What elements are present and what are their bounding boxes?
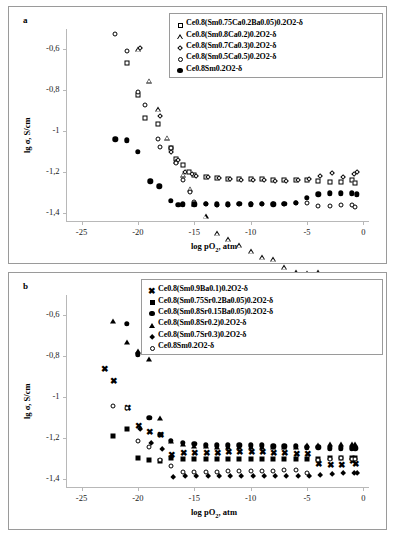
x-tick-label: -15	[178, 493, 210, 503]
data-point	[157, 184, 162, 189]
x-tick-label: -5	[291, 227, 323, 237]
x-axis-line	[66, 487, 369, 488]
x-tick	[194, 487, 195, 491]
data-point	[158, 458, 163, 463]
y-tick-label: -1,4	[26, 473, 60, 483]
y-tick-label: -0,6	[26, 43, 60, 53]
x-axis-title: log pO2, atm	[59, 241, 369, 253]
data-point	[237, 201, 242, 206]
data-point	[168, 198, 173, 203]
panel-a-legend: Ce0.8(Sm0.75Ca0.2Ba0.05)0.2O2-δCe0.8(Sm0…	[169, 13, 383, 78]
legend-label: Ce0.8(Sm0.8Sr0.15Ba0.05)0.2O2-δ	[158, 307, 273, 316]
data-point	[270, 202, 275, 207]
legend-item[interactable]: Ce0.8Sm0.2O2-δ	[174, 63, 377, 74]
legend-item[interactable]: Ce0.8(Sm0.75Sr0.2Ba0.05)0.2O2-δ	[146, 294, 377, 305]
legend-label: Ce0.8(Sm0.8Ca0.2)0.2O2-δ	[186, 30, 276, 39]
data-point	[236, 243, 242, 248]
x-tick	[138, 221, 139, 225]
data-point	[225, 237, 231, 242]
data-point	[305, 470, 310, 475]
legend-label: Ce0.8Sm0.2O2-δ	[158, 341, 214, 350]
x-tick-label: -10	[235, 227, 267, 237]
data-point	[281, 265, 287, 270]
data-point	[248, 202, 253, 207]
x-tick-label: -10	[235, 493, 267, 503]
data-point	[259, 468, 264, 473]
data-point	[304, 195, 309, 200]
x-tick	[307, 487, 308, 491]
data-point	[327, 191, 332, 196]
data-point	[180, 202, 185, 207]
data-point	[226, 468, 231, 473]
x-tick-label: 0	[347, 493, 379, 503]
y-tick-label: -0,8	[26, 350, 60, 360]
data-point	[282, 467, 287, 472]
legend-item[interactable]: Ce0.8(Sm0.75Ca0.2Ba0.05)0.2O2-δ	[174, 17, 377, 28]
y-tick-label: -1,2	[26, 432, 60, 442]
x-axis-line	[66, 221, 369, 222]
data-point	[113, 137, 118, 142]
data-point	[147, 445, 152, 450]
legend-item[interactable]: Ce0.8(Sm0.7Ca0.3)0.2O2-δ	[174, 40, 377, 51]
data-point	[248, 249, 254, 254]
panel-b-label: b	[23, 281, 28, 291]
data-point	[327, 457, 332, 462]
data-point	[353, 457, 358, 462]
legend-item[interactable]: Ce0.8(Sm0.8Ca0.2)0.2O2-δ	[174, 28, 377, 39]
legend-label: Ce0.8(Sm0.7Sr0.3)0.2O2-δ	[158, 330, 246, 339]
data-point	[338, 456, 343, 461]
data-point	[316, 192, 321, 197]
data-point	[124, 138, 129, 143]
x-axis-title: log pO2, atm	[59, 507, 369, 519]
y-tick-label: -1,4	[26, 207, 60, 217]
legend-item[interactable]: Ce0.8(Sm0.8Sr0.15Ba0.05)0.2O2-δ	[146, 306, 377, 317]
legend-item[interactable]: Ce0.8Sm0.2O2-δ	[146, 340, 377, 351]
data-point	[293, 200, 298, 205]
legend-item[interactable]: Ce0.8(Sm0.7Sr0.3)0.2O2-δ	[146, 329, 377, 340]
data-point	[293, 467, 298, 472]
data-point	[248, 468, 253, 473]
x-tick-label: -5	[291, 493, 323, 503]
data-point	[214, 202, 219, 207]
data-point	[354, 192, 359, 197]
y-tick-label: -0,8	[26, 84, 60, 94]
x-tick	[194, 221, 195, 225]
x-tick-label: 0	[347, 227, 379, 237]
x-tick-label: -25	[66, 227, 98, 237]
x-tick	[251, 221, 252, 225]
data-point	[203, 469, 208, 474]
figure-page: a -0,6-0,8-1-1,2-1,4-25-20-15-10-50log p…	[0, 0, 395, 538]
legend-item[interactable]: ✖Ce0.8(Sm0.9Ba0.1)0.2O2-δ	[146, 283, 377, 294]
data-point	[135, 439, 140, 444]
data-point	[271, 468, 276, 473]
data-point	[192, 202, 197, 207]
x-tick-label: -20	[122, 493, 154, 503]
x-tick	[138, 487, 139, 491]
data-point	[225, 202, 230, 207]
data-point	[214, 469, 219, 474]
x-tick	[82, 487, 83, 491]
y-axis-title: lg σ, S/cm	[22, 117, 32, 153]
data-point	[259, 255, 265, 260]
panel-b-legend: ✖Ce0.8(Sm0.9Ba0.1)0.2O2-δCe0.8(Sm0.75Sr0…	[141, 279, 383, 355]
x-tick	[363, 487, 364, 491]
panel-a-label: a	[23, 15, 28, 25]
data-point	[316, 458, 321, 463]
data-point	[203, 201, 208, 206]
legend-item[interactable]: Ce0.8(Sm0.8Sr0.2)0.2O2-δ	[146, 317, 377, 328]
legend-label: Ce0.8(Sm0.8Sr0.2)0.2O2-δ	[158, 318, 246, 327]
legend-item[interactable]: Ce0.8(Sm0.5Ca0.5)0.2O2-δ	[174, 51, 377, 62]
data-point	[168, 463, 173, 468]
panel-b: b -0,6-0,8-1-1,2-1,4-25-20-15-10-50log p…	[8, 272, 387, 530]
data-point	[181, 469, 186, 474]
x-tick	[251, 487, 252, 491]
data-point	[135, 149, 140, 154]
data-point	[214, 231, 220, 236]
legend-label: Ce0.8(Sm0.9Ba0.1)0.2O2-δ	[158, 284, 248, 293]
x-tick-label: -15	[178, 227, 210, 237]
data-point	[148, 178, 153, 183]
x-tick	[307, 221, 308, 225]
y-tick-label: -0,6	[26, 309, 60, 319]
x-tick	[363, 221, 364, 225]
data-point	[282, 201, 287, 206]
